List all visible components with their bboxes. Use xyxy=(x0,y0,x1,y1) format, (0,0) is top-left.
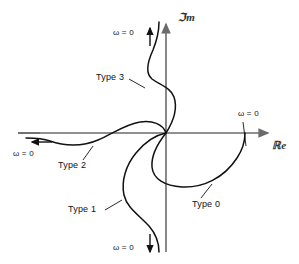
leader-type-1 xyxy=(105,200,122,210)
real-axis-label: ℝe xyxy=(272,140,286,151)
axis-group xyxy=(18,24,268,252)
imaginary-axis-label: ℑm xyxy=(178,12,195,23)
leader-type-2 xyxy=(83,146,93,160)
omega-zero-label-bottom: ω = 0 xyxy=(113,244,134,252)
curve-label-type-0: Type 0 xyxy=(192,200,220,209)
curve-type-3 xyxy=(148,22,175,133)
omega-direction-arrows xyxy=(32,28,150,252)
omega-zero-label-right: ω = 0 xyxy=(238,110,259,118)
curve-label-type-2: Type 2 xyxy=(58,161,86,170)
label-leader-lines xyxy=(83,79,246,210)
leader-type-3 xyxy=(129,79,145,88)
omega-zero-label-left: ω = 0 xyxy=(13,150,34,158)
curve-label-type-1: Type 1 xyxy=(68,205,96,214)
nyquist-plot-figure: ℑm ℝe Type 3 Type 2 Type 1 Type 0 ω = 0 … xyxy=(0,0,299,264)
curve-type-1 xyxy=(123,133,166,252)
curve-label-type-3: Type 3 xyxy=(96,73,124,82)
omega-zero-label-top: ω = 0 xyxy=(113,29,134,37)
nyquist-plot-canvas xyxy=(0,0,299,264)
nyquist-curves xyxy=(26,22,245,252)
leader-type-0 xyxy=(201,184,212,198)
